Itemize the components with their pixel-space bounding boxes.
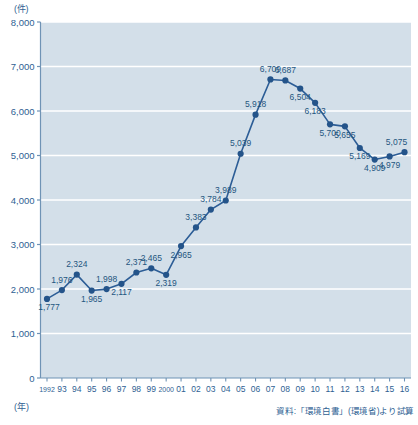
svg-text:11: 11 bbox=[326, 384, 335, 394]
svg-text:4,000: 4,000 bbox=[11, 195, 35, 206]
svg-text:96: 96 bbox=[102, 384, 112, 394]
svg-text:1,000: 1,000 bbox=[11, 328, 35, 339]
svg-text:08: 08 bbox=[281, 384, 291, 394]
svg-text:5,000: 5,000 bbox=[11, 150, 35, 161]
svg-text:6,183: 6,183 bbox=[304, 106, 326, 116]
svg-text:5,169: 5,169 bbox=[349, 151, 371, 161]
svg-text:3,383: 3,383 bbox=[185, 212, 207, 222]
svg-text:07: 07 bbox=[266, 384, 276, 394]
svg-text:10: 10 bbox=[310, 384, 320, 394]
svg-text:03: 03 bbox=[206, 384, 216, 394]
svg-text:5,039: 5,039 bbox=[230, 138, 252, 148]
source-note: 資料:「環境白書」(環境省)より試算 bbox=[276, 404, 414, 416]
svg-text:97: 97 bbox=[117, 384, 127, 394]
svg-text:6,000: 6,000 bbox=[11, 106, 35, 117]
svg-text:2,117: 2,117 bbox=[111, 287, 132, 297]
svg-text:1992: 1992 bbox=[39, 386, 55, 393]
svg-text:1,998: 1,998 bbox=[96, 274, 118, 284]
svg-text:15: 15 bbox=[385, 384, 395, 394]
svg-text:99: 99 bbox=[147, 384, 157, 394]
x-axis-ticks: 1992939495969798992000010203040506070809… bbox=[39, 378, 409, 394]
svg-text:12: 12 bbox=[340, 384, 350, 394]
svg-text:05: 05 bbox=[236, 384, 246, 394]
svg-text:09: 09 bbox=[295, 384, 305, 394]
svg-text:95: 95 bbox=[87, 384, 97, 394]
svg-text:2,000: 2,000 bbox=[11, 284, 35, 295]
svg-text:93: 93 bbox=[57, 384, 67, 394]
svg-text:2,965: 2,965 bbox=[170, 250, 192, 260]
y-axis-ticks: 8,0007,0006,0005,0004,0003,0002,0001,000… bbox=[11, 17, 41, 384]
svg-text:02: 02 bbox=[191, 384, 201, 394]
svg-text:2,319: 2,319 bbox=[156, 278, 178, 288]
svg-text:2,324: 2,324 bbox=[66, 259, 88, 269]
svg-text:6,504: 6,504 bbox=[290, 92, 312, 102]
svg-text:94: 94 bbox=[72, 384, 82, 394]
svg-text:13: 13 bbox=[355, 384, 365, 394]
chart-container: (件) 8,0007,0006,0005,0004,0003,0002,0001… bbox=[0, 0, 418, 425]
svg-text:3,000: 3,000 bbox=[11, 239, 35, 250]
svg-text:5,655: 5,655 bbox=[334, 130, 356, 140]
svg-text:3,784: 3,784 bbox=[200, 194, 222, 204]
svg-text:0: 0 bbox=[29, 373, 34, 384]
svg-text:7,000: 7,000 bbox=[11, 61, 35, 72]
svg-text:1,976: 1,976 bbox=[51, 275, 73, 285]
svg-text:04: 04 bbox=[221, 384, 231, 394]
x-axis-unit-label: (年) bbox=[14, 400, 29, 413]
svg-text:1,777: 1,777 bbox=[38, 302, 60, 312]
svg-text:4,979: 4,979 bbox=[379, 160, 401, 170]
svg-text:5,075: 5,075 bbox=[386, 137, 408, 147]
svg-text:1,965: 1,965 bbox=[81, 294, 103, 304]
svg-text:5,918: 5,918 bbox=[245, 99, 267, 109]
svg-text:3,989: 3,989 bbox=[215, 185, 237, 195]
svg-text:6,687: 6,687 bbox=[275, 65, 297, 75]
svg-text:8,000: 8,000 bbox=[11, 17, 35, 28]
line-chart: 8,0007,0006,0005,0004,0003,0002,0001,000… bbox=[0, 0, 418, 425]
svg-text:06: 06 bbox=[251, 384, 261, 394]
svg-text:16: 16 bbox=[400, 384, 410, 394]
svg-text:01: 01 bbox=[176, 384, 186, 394]
svg-text:2,465: 2,465 bbox=[141, 253, 163, 263]
svg-text:2000: 2000 bbox=[158, 386, 174, 393]
svg-text:98: 98 bbox=[132, 384, 142, 394]
svg-text:14: 14 bbox=[370, 384, 380, 394]
